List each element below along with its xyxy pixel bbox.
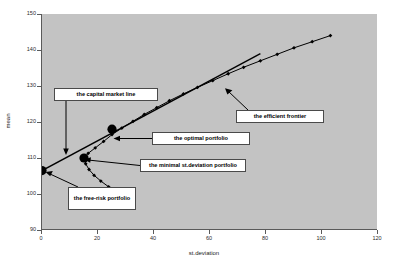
annotation-free-risk-portfolio: the free-risk portfolio bbox=[68, 187, 136, 210]
y-axis-title: mean bbox=[5, 101, 11, 141]
highlighted-point-the-minimal-st-deviation-portfolio bbox=[79, 153, 88, 162]
x-tick-label: 20 bbox=[85, 236, 109, 242]
x-tick-mark bbox=[209, 230, 210, 234]
data-point-marker bbox=[242, 65, 246, 69]
data-point-marker bbox=[275, 52, 279, 56]
y-tick-label: 130 bbox=[14, 83, 36, 89]
y-tick-label: 110 bbox=[14, 155, 36, 161]
annotation-capital-market-line: the capital market line bbox=[54, 88, 158, 101]
data-point-marker bbox=[310, 40, 314, 44]
x-tick-label: 100 bbox=[309, 236, 333, 242]
data-point-marker bbox=[292, 46, 296, 50]
y-tick-label: 140 bbox=[14, 47, 36, 53]
x-tick-mark bbox=[41, 230, 42, 234]
y-tick-label: 100 bbox=[14, 191, 36, 197]
chart-container: 150 140 130 120 110 100 90 0 20 40 60 80… bbox=[0, 0, 408, 266]
data-point-marker bbox=[226, 72, 230, 76]
x-tick-label: 60 bbox=[197, 236, 221, 242]
annotation-optimal-portfolio: the optimal portfolio bbox=[152, 132, 250, 145]
x-tick-label: 120 bbox=[365, 236, 389, 242]
y-tick-label: 150 bbox=[14, 11, 36, 17]
x-tick-label: 0 bbox=[29, 236, 53, 242]
data-point-marker bbox=[329, 34, 333, 38]
capital-market-line bbox=[42, 54, 260, 171]
y-tick-label: 90 bbox=[14, 227, 36, 233]
x-tick-mark bbox=[321, 230, 322, 234]
highlighted-point-the-optimal-portfolio bbox=[107, 125, 116, 134]
x-tick-mark bbox=[153, 230, 154, 234]
data-point-marker bbox=[259, 59, 263, 63]
annotation-efficient-frontier: the efficient frontier bbox=[236, 110, 324, 123]
x-tick-mark bbox=[265, 230, 266, 234]
highlighted-point-the-free-risk-portfolio bbox=[42, 166, 47, 175]
x-tick-label: 80 bbox=[253, 236, 277, 242]
y-tick-label: 120 bbox=[14, 119, 36, 125]
annotation-minimal-std-portfolio: the minimal st.deviation portfolio bbox=[140, 159, 246, 172]
x-axis-title: st.deviation bbox=[0, 250, 408, 256]
x-tick-mark bbox=[97, 230, 98, 234]
x-tick-mark bbox=[377, 230, 378, 234]
x-tick-label: 40 bbox=[141, 236, 165, 242]
